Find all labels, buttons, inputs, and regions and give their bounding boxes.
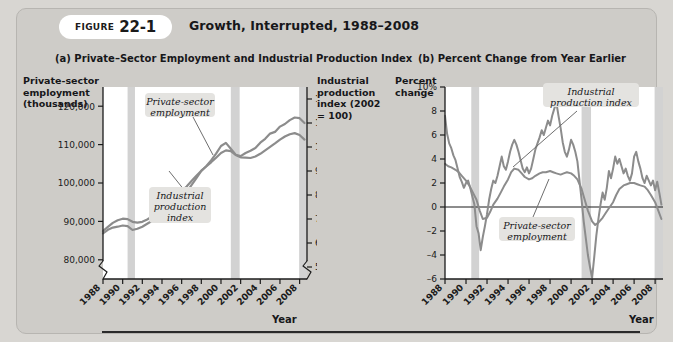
svg-text:Private-sector: Private-sector: [502, 220, 572, 231]
svg-text:2006: 2006: [255, 282, 280, 307]
svg-text:2008: 2008: [274, 282, 299, 307]
svg-text:1996: 1996: [156, 282, 181, 307]
panel-b-chart: –6–4–20246810%19881990199219941996199820…: [391, 67, 673, 317]
svg-text:70: 70: [315, 214, 317, 224]
svg-text:80,000: 80,000: [64, 255, 96, 265]
svg-text:1988: 1988: [78, 282, 103, 307]
svg-text:1998: 1998: [176, 282, 201, 307]
svg-text:2004: 2004: [235, 282, 260, 307]
svg-text:1990: 1990: [441, 282, 466, 307]
svg-text:1992: 1992: [117, 282, 142, 307]
svg-text:50: 50: [315, 262, 317, 272]
svg-text:2002: 2002: [215, 282, 240, 307]
figure-header: FIGURE 22-1 Growth, Interrupted, 1988–20…: [17, 15, 656, 41]
svg-text:90,000: 90,000: [64, 217, 96, 227]
svg-text:100: 100: [315, 142, 317, 152]
figure-label-word: FIGURE: [75, 22, 114, 32]
panel-b-title: (b) Percent Change from Year Earlier: [377, 53, 667, 64]
svg-text:1996: 1996: [504, 282, 529, 307]
figure-title: Growth, Interrupted, 1988–2008: [189, 18, 419, 33]
svg-text:–2: –2: [427, 226, 437, 236]
svg-text:1994: 1994: [483, 282, 508, 307]
svg-text:–4: –4: [427, 250, 438, 260]
panel-b-x-axis-label: Year: [629, 314, 654, 325]
svg-text:production: production: [154, 201, 207, 212]
svg-text:1992: 1992: [462, 282, 487, 307]
svg-text:2: 2: [431, 178, 437, 188]
svg-text:employment: employment: [150, 107, 210, 118]
svg-text:Private-sector: Private-sector: [145, 96, 215, 107]
svg-text:90: 90: [315, 166, 317, 176]
svg-text:Industrial: Industrial: [155, 190, 203, 201]
svg-text:2008: 2008: [630, 282, 655, 307]
svg-text:10%: 10%: [417, 82, 437, 92]
svg-text:120: 120: [315, 94, 317, 104]
figure-bottom-rule: [102, 331, 640, 333]
panel-a-title: (a) Private–Sector Employment and Indust…: [55, 53, 355, 64]
svg-text:0: 0: [431, 202, 437, 212]
svg-text:110: 110: [315, 118, 317, 128]
svg-text:6: 6: [431, 130, 437, 140]
svg-text:2000: 2000: [196, 282, 221, 307]
svg-text:1998: 1998: [525, 282, 550, 307]
svg-text:employment: employment: [507, 231, 567, 242]
panel-a-x-axis-label: Year: [272, 314, 297, 325]
svg-text:1994: 1994: [137, 282, 162, 307]
figure-number-pill: FIGURE 22-1: [59, 15, 172, 39]
figure-number: 22-1: [119, 18, 156, 36]
svg-text:2006: 2006: [609, 282, 634, 307]
svg-text:index: index: [167, 212, 194, 223]
svg-text:2000: 2000: [546, 282, 571, 307]
svg-text:1990: 1990: [97, 282, 122, 307]
svg-text:production index: production index: [550, 97, 632, 108]
svg-text:2002: 2002: [567, 282, 592, 307]
svg-text:2004: 2004: [588, 282, 613, 307]
svg-text:100,000: 100,000: [58, 178, 95, 188]
svg-text:Industrial: Industrial: [566, 86, 614, 97]
svg-text:80: 80: [315, 190, 317, 200]
figure-card: FIGURE 22-1 Growth, Interrupted, 1988–20…: [16, 8, 657, 334]
svg-text:1988: 1988: [420, 282, 445, 307]
svg-text:4: 4: [431, 154, 437, 164]
svg-text:60: 60: [315, 238, 317, 248]
svg-text:8: 8: [431, 106, 437, 116]
panel-a-chart: 80,00090,000100,000110,000120,0005060708…: [17, 67, 317, 317]
panel-a-right-axis-caption: Industrial production index (2002 = 100): [317, 75, 397, 121]
svg-text:110,000: 110,000: [58, 140, 95, 150]
svg-text:120,000: 120,000: [58, 102, 95, 112]
